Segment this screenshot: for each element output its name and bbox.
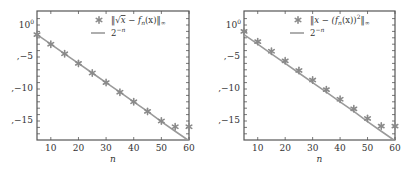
x-tick-label: 40 [334,143,346,153]
y-tick-label-top: 100 [226,18,241,30]
x-tick-label: 30 [100,143,112,153]
legend-label-line: 2−n [310,26,324,38]
data-point-asterisk-icon [379,123,385,129]
y-tick-label: ,−5 [224,51,240,61]
x-tick-label: 10 [252,143,264,153]
data-point-asterisk-icon [324,86,330,92]
x-tick-label: 40 [128,143,140,153]
data-point-asterisk-icon [282,58,288,64]
x-tick-label: 60 [183,143,195,153]
x-tick-label: 20 [279,143,291,153]
series-line-2-pow-neg-n [244,35,395,141]
series-line-2-pow-neg-n [37,35,189,141]
x-tick-label: 30 [307,143,319,153]
y-tick-label: ,−15 [11,115,33,125]
legend-label-markers: ‖x − (fn(x))2‖∞ [310,13,370,26]
data-point-asterisk-icon [255,38,261,44]
x-tick-label: 10 [45,143,57,153]
x-axis-label: n [317,154,323,164]
legend-label-line: 2−n [111,26,125,38]
x-tick-label: 50 [156,143,168,153]
data-point-asterisk-icon [392,123,398,129]
plot-left: 102030405060n100,−5,−10,−15‖√x − fn(x)‖∞… [0,0,206,170]
x-tick-label: 50 [362,143,374,153]
data-point-asterisk-icon [186,124,192,130]
y-tick-label-top: 100 [19,18,34,30]
legend-asterisk-icon [295,17,301,23]
y-tick-label: ,−10 [218,83,240,93]
y-tick-label: ,−15 [218,115,240,125]
x-tick-label: 60 [389,143,401,153]
data-point-asterisk-icon [269,48,275,54]
chart-right: 102030405060n100,−5,−10,−15‖x − (fn(x))2… [206,0,412,170]
y-tick-label: ,−10 [11,83,33,93]
x-tick-label: 20 [73,143,85,153]
data-point-asterisk-icon [296,67,302,73]
x-axis-label: n [110,154,116,164]
legend-asterisk-icon [96,17,102,23]
data-point-asterisk-icon [351,106,357,112]
data-point-asterisk-icon [337,96,343,102]
data-point-asterisk-icon [310,77,316,83]
y-tick-label: ,−5 [17,51,33,61]
plot-right: 102030405060n100,−5,−10,−15‖x − (fn(x))2… [206,0,412,170]
legend-label-markers: ‖√x − fn(x)‖∞ [111,15,166,26]
chart-left: 102030405060n100,−5,−10,−15‖√x − fn(x)‖∞… [0,0,206,170]
